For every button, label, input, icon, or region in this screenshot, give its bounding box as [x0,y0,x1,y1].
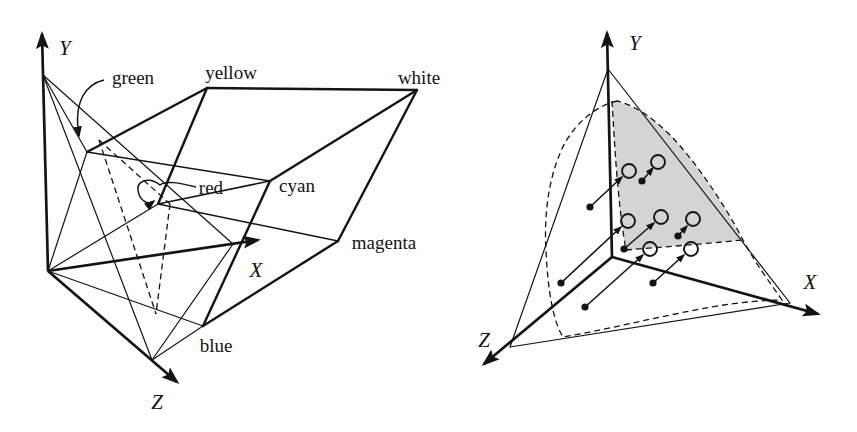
left-y-axis-label: Y [59,36,73,60]
magenta-label: magenta [352,232,417,253]
color-solid-edges [87,88,417,326]
left-z-axis [48,271,177,382]
green-label-arrow [78,80,104,136]
projection-line [590,177,622,207]
left-x-axis [48,240,258,271]
right-x-axis-label: X [803,270,818,294]
right-y-axis-label: Y [629,31,643,55]
right-x-axis [612,257,818,314]
left-y-axis [42,34,48,271]
page: Y X Z green yellow white red cyan magent… [0,0,857,432]
right-figure: Y X Z [478,31,818,364]
right-y-axis [607,33,612,257]
construction-lines [43,75,338,360]
yellow-label: yellow [205,62,257,83]
diagram-canvas: Y X Z green yellow white red cyan magent… [0,0,857,432]
unit-plane-triangle [43,75,233,360]
white-label: white [398,67,440,88]
chromaticity-triangle-dashed [99,140,170,314]
green-label: green [112,67,155,88]
blue-label: blue [200,335,233,356]
projection-line [585,255,643,307]
right-z-axis-label: Z [478,328,490,352]
cyan-label: cyan [279,175,315,196]
red-label: red [199,177,224,198]
left-figure: Y X Z green yellow white red cyan magent… [42,34,440,414]
left-x-axis-label: X [249,258,264,282]
left-z-axis-label: Z [151,390,163,414]
